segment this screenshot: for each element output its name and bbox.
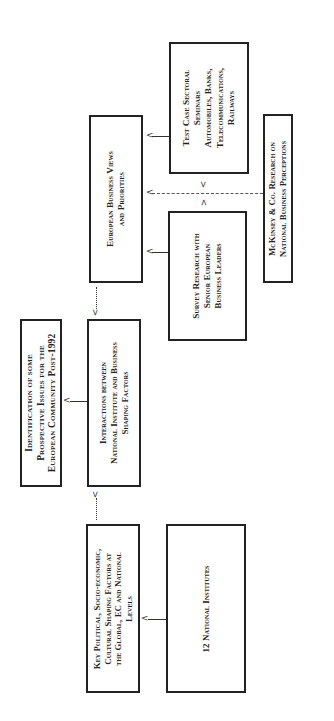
survey-text: Survey Research with Senior European Bus… <box>191 233 225 318</box>
key-factors-line-2: Cultural Shaping Factors at <box>102 548 113 669</box>
national-institutes-text: 12 National Institutes <box>201 565 212 652</box>
double-arrow-down-icon: < <box>199 199 208 207</box>
test-case-line-2: Seminars <box>192 68 203 149</box>
survey-line-3: Business Leaders <box>213 233 224 318</box>
double-arrow-up-icon: < <box>199 181 208 189</box>
test-case-line-3: Automobiles, Banks, <box>203 68 214 149</box>
connector-mckinsey-european-dashed <box>152 193 263 194</box>
interactions-text: Interactions between National Institute … <box>98 342 131 464</box>
key-factors-line-3: the Global, EC and National <box>113 548 124 669</box>
mckinsey-text: McKinsey & Co. Research on National Busi… <box>267 140 288 256</box>
connector-keyfactors-interactions <box>96 498 97 520</box>
identification-text: Identification of some Prospective Issue… <box>24 334 59 473</box>
interactions-box: Interactions between National Institute … <box>87 319 141 487</box>
connector-institutes-keyfactors <box>148 619 166 620</box>
test-case-box: Test Case Sectoral Seminars Automobiles,… <box>169 42 249 174</box>
connector-european-interactions <box>96 287 97 309</box>
identification-line-3: European Community Post-1992 <box>47 334 59 473</box>
arrowhead-left-icon: < <box>141 614 149 623</box>
interactions-line-2: National Institute and Business <box>109 342 120 464</box>
mckinsey-line-2: National Business Perceptions <box>278 140 289 256</box>
national-institutes-box: 12 National Institutes <box>166 524 246 693</box>
survey-line-1: Survey Research with <box>191 233 202 318</box>
mckinsey-box: McKinsey & Co. Research on National Busi… <box>263 114 293 283</box>
arrowhead-down-icon: < <box>91 309 100 317</box>
mckinsey-line-1: McKinsey & Co. Research on <box>267 140 278 256</box>
arrowhead-left-icon: < <box>63 396 71 405</box>
arrowhead-up-icon: < <box>91 491 100 499</box>
key-factors-text: Key Political, Socio-economic, Cultural … <box>92 548 135 669</box>
arrowhead-left-icon: < <box>146 188 154 197</box>
identification-box: Identification of some Prospective Issue… <box>20 319 62 487</box>
connector-interactions-identification <box>70 401 87 402</box>
test-case-line-4: Telecommunications, <box>215 68 226 149</box>
survey-line-2: Senior European <box>202 233 213 318</box>
survey-box: Survey Research with Senior European Bus… <box>168 211 247 341</box>
test-case-line-1: Test Case Sectoral <box>181 68 192 149</box>
key-factors-line-4: Levels <box>124 548 135 669</box>
european-views-line-2: and Priorities <box>116 151 127 247</box>
arrowhead-left-icon: < <box>146 131 154 140</box>
key-factors-line-1: Key Political, Socio-economic, <box>92 548 103 669</box>
test-case-text: Test Case Sectoral Seminars Automobiles,… <box>181 68 237 149</box>
identification-line-2: Prospective Issues for the <box>35 334 47 473</box>
european-views-box: European Business Views and Priorities <box>89 115 143 283</box>
european-views-text: European Business Views and Priorities <box>105 151 127 247</box>
interactions-line-1: Interactions between <box>98 342 109 464</box>
interactions-line-3: Shaping Factors <box>119 342 130 464</box>
identification-line-1: Identification of some <box>24 334 36 473</box>
connector-testcase-european <box>152 136 169 137</box>
european-views-line-1: European Business Views <box>105 151 116 247</box>
connector-survey-european <box>152 252 168 253</box>
arrowhead-left-icon: < <box>146 247 154 256</box>
key-factors-box: Key Political, Socio-economic, Cultural … <box>86 524 140 693</box>
national-institutes-line-1: 12 National Institutes <box>201 565 212 652</box>
test-case-line-5: Railways <box>226 68 237 149</box>
